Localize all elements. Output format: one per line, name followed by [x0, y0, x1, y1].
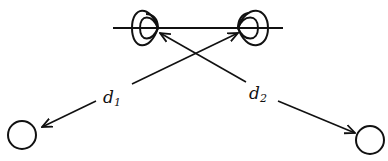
observer-2-circle [356, 126, 384, 154]
label-d2: d2 [249, 83, 267, 105]
label-d1: d1 [103, 87, 121, 109]
diagram-canvas: d1 d2 [0, 0, 388, 161]
distance-d1-arrow [42, 33, 238, 127]
observer-1-circle [8, 121, 36, 149]
diagram-svg: d1 d2 [0, 0, 388, 161]
